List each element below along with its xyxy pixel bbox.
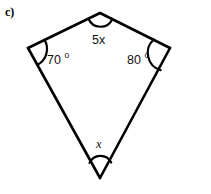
right-angle-arc [148, 40, 161, 71]
left-angle-degree-symbol: o [65, 50, 70, 60]
right-angle-label: 80 [127, 53, 141, 67]
bottom-right-edge [100, 48, 170, 178]
bottom-angle-label: x [95, 137, 102, 151]
left-angle-label: 70 [47, 53, 61, 67]
quadrilateral-diagram: 5x 70 o 80 o x [0, 0, 211, 194]
bottom-left-edge [28, 48, 100, 178]
geometry-figure: c) 5x 70 o 80 o x [0, 0, 211, 194]
top-angle-label: 5x [92, 33, 106, 47]
top-right-edge [100, 13, 170, 48]
top-angle-arc [89, 19, 113, 27]
right-angle-degree-symbol: o [145, 50, 150, 60]
